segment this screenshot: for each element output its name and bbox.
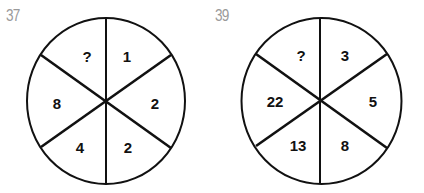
segment-left: 22 bbox=[267, 93, 284, 110]
puzzle-37: 37 ? 1 2 2 4 8 bbox=[0, 0, 212, 193]
segmented-circle-diagram: ? 1 2 2 4 8 bbox=[0, 0, 212, 193]
segment-top-left: ? bbox=[296, 47, 305, 64]
segment-bottom-left: 13 bbox=[290, 137, 307, 154]
segment-left: 8 bbox=[53, 95, 61, 112]
segment-bottom-left: 4 bbox=[76, 139, 85, 156]
puzzle-39: 39 ? 3 5 8 13 22 bbox=[212, 0, 424, 193]
segment-right: 2 bbox=[151, 95, 159, 112]
segment-top-right: 3 bbox=[341, 47, 349, 64]
segment-bottom-right: 8 bbox=[341, 137, 349, 154]
segmented-circle-diagram: ? 3 5 8 13 22 bbox=[212, 0, 424, 193]
segment-right: 5 bbox=[369, 93, 377, 110]
segment-bottom-right: 2 bbox=[124, 139, 132, 156]
segment-top-right: 1 bbox=[123, 48, 131, 65]
segment-top-left: ? bbox=[82, 48, 91, 65]
